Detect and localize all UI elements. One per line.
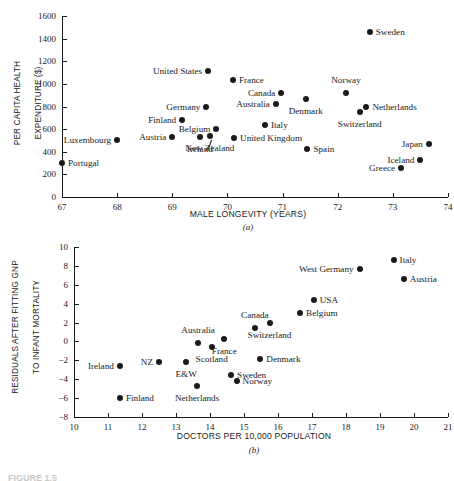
data-point-label: NZ: [141, 357, 153, 367]
data-point-label: Italy: [271, 120, 288, 130]
data-point: [398, 165, 404, 171]
data-point-label: United States: [153, 66, 202, 76]
panel-b-x-tick: [312, 413, 313, 417]
panel-b-y-tick: [75, 266, 79, 267]
data-point: [357, 109, 363, 115]
panel-b-x-tick: [346, 413, 347, 417]
data-point: [179, 117, 185, 123]
data-point-label: Australia: [236, 99, 270, 109]
panel-a-y-tick: [63, 39, 67, 40]
panel-b-x-tick: [176, 413, 177, 417]
data-point: [195, 340, 201, 346]
data-point: [228, 372, 234, 378]
chart-panel-a: PER CAPITA HEALTH EXPENDITURE ($) 020040…: [0, 0, 454, 235]
data-point: [257, 356, 263, 362]
panel-a-y-tick-label: 1200: [38, 56, 56, 66]
data-point: [156, 359, 162, 365]
data-point: [230, 77, 236, 83]
chart-panel-b: RESIDUALS AFTER FITTING GNP TO INFANT MO…: [0, 235, 454, 481]
panel-b-y-tick-label: 6: [64, 280, 69, 290]
data-point: [114, 137, 120, 143]
data-point-label: Denmark: [266, 354, 300, 364]
data-point-label: USA: [320, 295, 338, 305]
data-point-label: Sweden: [376, 27, 405, 37]
figure-caption: FIGURE 1.5: [8, 473, 57, 481]
panel-b-y-tick: [75, 360, 79, 361]
data-point: [221, 336, 227, 342]
data-point: [203, 104, 209, 110]
data-point: [205, 68, 211, 74]
data-point-label: Finland: [126, 393, 154, 403]
panel-a-y-tick: [63, 197, 67, 198]
data-point: [267, 320, 273, 326]
panel-b-x-tick: [210, 413, 211, 417]
data-point-label: United Kingdom: [240, 133, 302, 143]
panel-b-x-tick: [448, 413, 449, 417]
panel-b-x-tick: [278, 413, 279, 417]
panel-b-y-tick-label: −8: [58, 412, 68, 422]
panel-a-y-tick: [63, 84, 67, 85]
panel-b-letter: (b): [0, 445, 454, 455]
figure-container: PER CAPITA HEALTH EXPENDITURE ($) 020040…: [0, 0, 454, 481]
panel-a-y-tick: [63, 107, 67, 108]
data-point-label: Finland: [148, 115, 176, 125]
panel-a-y-tick: [63, 152, 67, 153]
data-point-label: Norway: [243, 376, 273, 386]
panel-b-x-tick: [74, 413, 75, 417]
data-point-label: Denmark: [289, 106, 323, 116]
data-point-label: France: [239, 75, 264, 85]
panel-b-x-axis: [74, 417, 448, 418]
panel-b-y-tick: [75, 285, 79, 286]
data-point-label: West Germany: [299, 264, 354, 274]
panel-b-x-tick: [142, 413, 143, 417]
data-point: [297, 310, 303, 316]
panel-a-plot-area: 0200400600800100012001400160067686970717…: [0, 0, 454, 240]
panel-a-x-axis-label: MALE LONGEVITY (YEARS): [0, 209, 454, 219]
data-point: [311, 297, 317, 303]
data-point-label: Norway: [331, 75, 361, 85]
data-point: [273, 101, 279, 107]
panel-a-y-tick-label: 200: [43, 169, 57, 179]
data-point: [169, 134, 175, 140]
panel-a-x-tick: [283, 193, 284, 197]
data-point-label: Switzerland: [338, 119, 382, 129]
panel-b-y-tick-label: 8: [64, 261, 69, 271]
data-point-label: Switzerland: [248, 330, 292, 340]
panel-b-y-tick: [75, 247, 79, 248]
data-point: [391, 257, 397, 263]
panel-a-y-tick-label: 1600: [38, 11, 56, 21]
panel-a-y-tick-label: 600: [43, 124, 57, 134]
panel-a-y-tick: [63, 129, 67, 130]
panel-b-y-tick: [75, 323, 79, 324]
data-point: [59, 160, 65, 166]
panel-b-y-tick-label: 2: [64, 318, 69, 328]
panel-b-y-tick-label: 10: [59, 242, 68, 252]
data-point: [234, 378, 240, 384]
data-point: [303, 96, 309, 102]
panel-b-y-tick-label: −2: [58, 355, 68, 365]
data-point-label: Ireland: [88, 361, 114, 371]
data-point-label: Belgium: [306, 308, 338, 318]
data-point-label: Portugal: [68, 158, 99, 168]
panel-b-y-tick: [75, 341, 79, 342]
panel-a-x-axis: [62, 197, 448, 198]
data-point-label: Luxembourg: [64, 135, 111, 145]
panel-a-x-tick: [172, 193, 173, 197]
panel-a-y-tick-label: 800: [43, 102, 57, 112]
panel-a-x-tick: [227, 193, 228, 197]
data-point-label: E&W: [175, 369, 196, 379]
panel-a-y-tick-label: 0: [52, 192, 57, 202]
panel-b-x-tick: [380, 413, 381, 417]
panel-a-y-tick: [63, 16, 67, 17]
panel-a-x-tick: [62, 193, 63, 197]
data-point-label: Italy: [400, 255, 417, 265]
data-point: [426, 141, 432, 147]
data-point: [363, 104, 369, 110]
panel-b-x-tick: [414, 413, 415, 417]
data-point-label: Australia: [181, 325, 215, 335]
data-point-label: Belgium: [179, 124, 211, 134]
panel-b-y-tick: [75, 398, 79, 399]
panel-a-y-tick-label: 1400: [38, 34, 56, 44]
panel-a-y-tick: [63, 174, 67, 175]
data-point: [343, 90, 349, 96]
